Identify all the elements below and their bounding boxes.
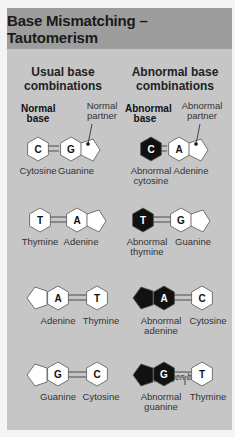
base-letter: C bbox=[34, 144, 41, 155]
base-label: Cytosine bbox=[184, 316, 232, 326]
base-letter: T bbox=[37, 215, 43, 226]
pair-abnormal-cytosine-adenine bbox=[141, 124, 208, 161]
base-label: Guanine bbox=[52, 166, 100, 176]
base-label: Thymine bbox=[77, 316, 125, 326]
diagram-panel: Base Mismatching – Tautomerism Usual bas… bbox=[7, 8, 232, 430]
base-letter: T bbox=[94, 293, 100, 304]
base-letter: T bbox=[199, 369, 205, 380]
base-letter: G bbox=[54, 369, 62, 380]
base-label: Abnormal adenine bbox=[135, 316, 187, 336]
base-label: Guanine bbox=[34, 392, 82, 402]
base-label: Cytosine bbox=[77, 392, 125, 402]
base-label: Adenine bbox=[34, 316, 82, 326]
base-letter: C bbox=[93, 369, 100, 380]
base-label: Adenine bbox=[57, 237, 105, 247]
base-letter: G bbox=[160, 369, 168, 380]
base-letter: A bbox=[73, 215, 80, 226]
base-letter: C bbox=[147, 144, 154, 155]
base-pair-diagram: C G C A T A T G A T A C G C G T bbox=[7, 8, 232, 430]
base-label: Abnormal thymine bbox=[121, 237, 173, 257]
pair-cytosine-guanine bbox=[28, 124, 100, 161]
base-label: Adenine bbox=[167, 166, 215, 176]
base-letter: A bbox=[175, 144, 182, 155]
base-label: Abnormal guanine bbox=[135, 392, 187, 412]
base-letter: G bbox=[177, 215, 185, 226]
base-letter: A bbox=[54, 293, 61, 304]
base-letter: A bbox=[160, 293, 167, 304]
base-letter: G bbox=[67, 144, 75, 155]
base-letter: T bbox=[140, 215, 146, 226]
base-label: Guanine bbox=[169, 237, 217, 247]
base-letter: C bbox=[198, 293, 205, 304]
base-label: Thymine bbox=[184, 392, 232, 402]
